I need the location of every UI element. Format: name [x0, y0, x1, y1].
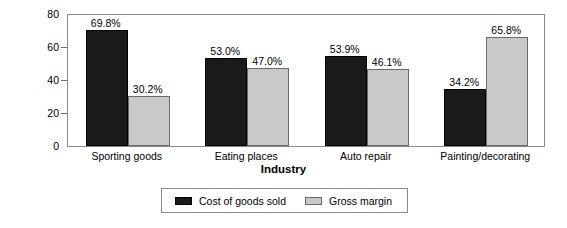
- bar-cost-of-goods-sold-eating-places: [205, 58, 247, 146]
- bar-cost-of-goods-sold-auto-repair: [325, 56, 367, 146]
- bar-value-gross-margin-auto-repair: 46.1%: [359, 57, 415, 68]
- legend-swatch-icon-gross-margin: [305, 197, 322, 205]
- bar-gross-margin-painting-decorating: [486, 37, 528, 146]
- y-tick-label-20: 20: [33, 108, 59, 118]
- y-tick-label-80: 80: [33, 9, 59, 19]
- bar-gross-margin-sporting-goods: [128, 96, 170, 146]
- chart-legend: Cost of goods sold Gross margin: [161, 188, 408, 213]
- legend-entry-cost-of-goods-sold: Cost of goods sold: [175, 194, 286, 208]
- legend-swatch-icon-cost-of-goods-sold: [175, 197, 192, 205]
- y-tick-label-0: 0: [33, 141, 59, 151]
- x-axis-title: Industry: [0, 163, 567, 175]
- y-tick-label-60: 60: [33, 42, 59, 52]
- legend-entry-gross-margin: Gross margin: [305, 194, 392, 208]
- bar-chart: Percentage 80 60 40 20 0 69.8% 30.2% 53.…: [0, 0, 567, 228]
- bar-value-gross-margin-painting-decorating: 65.8%: [478, 25, 534, 36]
- y-tick-label-40: 40: [33, 75, 59, 85]
- legend-label-cost-of-goods-sold: Cost of goods sold: [199, 195, 286, 207]
- bar-value-cost-of-goods-sold-painting-decorating: 34.2%: [436, 77, 492, 88]
- bar-gross-margin-eating-places: [247, 68, 289, 146]
- bar-value-cost-of-goods-sold-auto-repair: 53.9%: [317, 44, 373, 55]
- legend-label-gross-margin: Gross margin: [329, 195, 392, 207]
- bar-value-gross-margin-eating-places: 47.0%: [239, 56, 295, 67]
- x-tick-label-painting-decorating: Painting/decorating: [415, 150, 555, 162]
- bar-value-gross-margin-sporting-goods: 30.2%: [120, 84, 176, 95]
- bar-gross-margin-auto-repair: [367, 69, 409, 146]
- bar-value-cost-of-goods-sold-sporting-goods: 69.8%: [78, 18, 134, 29]
- bar-cost-of-goods-sold-painting-decorating: [444, 89, 486, 146]
